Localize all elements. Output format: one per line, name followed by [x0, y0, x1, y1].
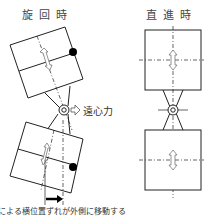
upper-body-marker-dot — [69, 48, 77, 56]
centrifugal-arrow-icon — [71, 105, 80, 115]
centrifugal-force-label: 遠心力 — [83, 103, 113, 118]
joint-outer-circle-straight — [168, 105, 178, 115]
lower-link-right-straight — [176, 113, 183, 130]
upper-link-arm-left — [45, 93, 60, 108]
upper-link-right-straight — [176, 90, 183, 107]
upper-link-left-straight — [163, 90, 170, 107]
straight-title: 直進時 — [146, 6, 197, 22]
offset-arrow-head-icon — [57, 195, 63, 203]
joint-outer-circle — [59, 105, 69, 115]
turning-title: 旋回時 — [22, 6, 73, 22]
lower-link-arm-left — [47, 114, 58, 130]
upper-link-arm-right — [68, 86, 70, 106]
lower-body-marker-dot — [69, 163, 77, 171]
straight-diagram — [139, 26, 204, 198]
bottom-caption: による横位置ずれが外側に移動する — [0, 205, 126, 216]
turning-diagram — [10, 27, 83, 205]
lower-link-left-straight — [163, 113, 170, 130]
